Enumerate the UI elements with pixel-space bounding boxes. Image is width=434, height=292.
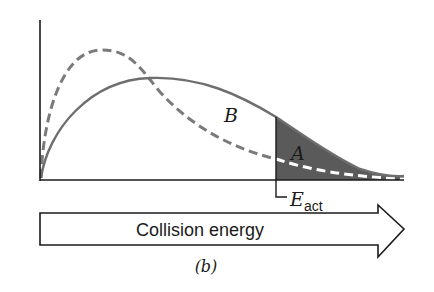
solid-curve-b [41, 78, 404, 178]
panel-label: (b) [195, 257, 218, 276]
arrow-label: Collision energy [136, 220, 264, 240]
dashed-curve [41, 50, 276, 178]
energy-distribution-diagram: B A E act Collision energy (b) [0, 0, 434, 292]
e-act-subscript: act [304, 198, 323, 214]
e-act-label: E [289, 188, 304, 210]
area-label-a: A [289, 142, 305, 164]
curve-label-b: B [223, 104, 238, 126]
